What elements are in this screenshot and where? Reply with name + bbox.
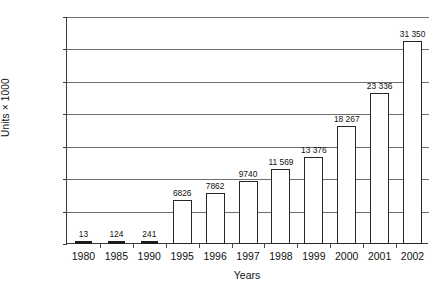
bar [239, 181, 258, 244]
y-axis-tick-mark [63, 244, 67, 245]
y-axis-title-text: Units × 1000 [0, 121, 11, 137]
bar [75, 241, 92, 244]
x-axis-tick-mark [100, 244, 101, 248]
x-axis-tick-mark [133, 244, 134, 248]
bar [108, 241, 125, 244]
bar-slot: 6826 [166, 17, 199, 244]
x-axis-tick-label: 2002 [390, 250, 436, 262]
bar-slot: 23 336 [363, 17, 396, 244]
bar [304, 157, 323, 244]
bar-chart-figure: Units × 1000 0500010 00015 00020 00025 0… [0, 0, 439, 291]
x-axis-title: Years [66, 269, 428, 281]
x-axis-tick-mark [199, 244, 200, 248]
bar-slot: 241 [133, 17, 166, 244]
bar [141, 241, 158, 244]
bar-slot: 7862 [199, 17, 232, 244]
bars-group: 1312424168267862974011 56913 37618 26723… [67, 17, 429, 244]
bar-slot: 13 376 [297, 17, 330, 244]
x-axis-tick-mark [166, 244, 167, 248]
x-axis-tick-mark [264, 244, 265, 248]
x-axis-tick-mark [232, 244, 233, 248]
y-axis-title: Units × 1000 [2, 85, 18, 205]
x-axis-tick-mark [363, 244, 364, 248]
bar-slot: 18 267 [330, 17, 363, 244]
x-axis-tick-mark [396, 244, 397, 248]
bar [173, 200, 192, 244]
x-axis-tick-mark [297, 244, 298, 248]
bar [206, 193, 225, 244]
bar-slot: 124 [100, 17, 133, 244]
bar [403, 41, 422, 244]
bar-slot: 9740 [232, 17, 265, 244]
x-axis-tick-mark [330, 244, 331, 248]
bar [337, 126, 356, 244]
bar-slot: 11 569 [264, 17, 297, 244]
plot-area: 0500010 00015 00020 00025 00030 00035 00… [66, 17, 428, 244]
bar [271, 169, 290, 244]
bar-slot: 13 [67, 17, 100, 244]
bar-value-label: 31 350 [388, 30, 437, 39]
bar-slot: 31 350 [396, 17, 429, 244]
bar [370, 93, 389, 244]
